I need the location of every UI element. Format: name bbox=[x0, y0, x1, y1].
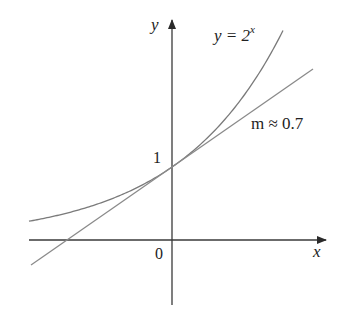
x-axis-label: x bbox=[312, 242, 321, 261]
exponential-label-lhs: y = 2 bbox=[212, 26, 251, 45]
exponential-label: y = 2x bbox=[212, 23, 255, 45]
y-intercept-label: 1 bbox=[153, 149, 161, 166]
exponential-label-exponent: x bbox=[249, 23, 255, 35]
y-axis-label: y bbox=[149, 15, 159, 34]
exponential-curve bbox=[29, 31, 283, 222]
slope-label: m ≈ 0.7 bbox=[251, 114, 304, 133]
function-graph: y x 0 1 y = 2x m ≈ 0.7 bbox=[0, 0, 339, 309]
origin-label: 0 bbox=[155, 245, 163, 262]
